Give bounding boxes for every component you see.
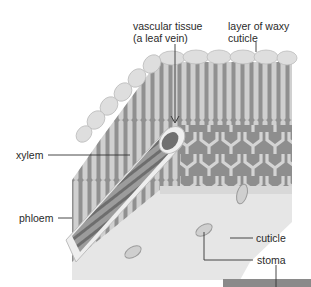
label-waxy-cuticle-line1: layer of waxy bbox=[228, 20, 289, 32]
label-stoma: stoma bbox=[257, 254, 286, 266]
lower-epidermis-strip bbox=[160, 186, 292, 194]
label-xylem: xylem bbox=[16, 149, 43, 161]
label-cuticle: cuticle bbox=[256, 232, 286, 244]
micrograph-strip bbox=[223, 279, 311, 287]
label-waxy-cuticle: layer of waxy cuticle bbox=[228, 20, 289, 44]
label-vascular-tissue-line2: (a leaf vein) bbox=[133, 32, 202, 44]
label-vascular-tissue: vascular tissue (a leaf vein) bbox=[133, 20, 202, 44]
label-waxy-cuticle-line2: cuticle bbox=[228, 32, 289, 44]
label-phloem: phloem bbox=[19, 212, 53, 224]
spongy-mesophyll bbox=[180, 125, 292, 190]
label-vascular-tissue-line1: vascular tissue bbox=[133, 20, 202, 32]
